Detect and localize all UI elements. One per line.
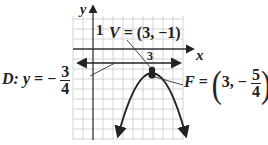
parabola-curve	[118, 73, 186, 136]
vertex-name: V	[109, 24, 120, 41]
focus-point	[148, 71, 155, 78]
x-axis-label: x	[196, 48, 204, 63]
y-tick-label: 1	[96, 23, 104, 38]
directrix-numerator: 3	[60, 64, 70, 81]
focus-label: F = (3, − 5 4 )	[184, 67, 268, 100]
focus-minus: −	[238, 73, 247, 90]
focus-open-paren: (	[212, 65, 222, 103]
directrix-leader	[90, 63, 115, 76]
directrix-var: y	[23, 70, 30, 87]
directrix-label: D: y = − 3 4	[2, 64, 70, 97]
vertex-value: (3, −1)	[137, 24, 181, 41]
focus-numerator: 5	[251, 67, 261, 84]
focus-close-paren: )	[261, 65, 268, 103]
focus-leader	[155, 77, 183, 85]
focus-equals: =	[199, 73, 208, 90]
directrix-fraction: 3 4	[60, 64, 70, 97]
y-axis-label: y	[80, 3, 86, 17]
directrix-denominator: 4	[60, 81, 70, 97]
focus-denominator: 4	[251, 84, 261, 100]
directrix-name: D:	[2, 70, 19, 87]
directrix-equals: =	[34, 70, 43, 87]
directrix-minus: −	[47, 70, 56, 87]
focus-x: 3,	[222, 73, 234, 90]
vertex-label: V = (3, −1)	[109, 25, 181, 41]
focus-name: F	[184, 73, 195, 90]
vertex-equals: =	[124, 24, 133, 41]
focus-fraction: 5 4	[251, 67, 261, 100]
x-tick-label: 3	[147, 50, 153, 62]
